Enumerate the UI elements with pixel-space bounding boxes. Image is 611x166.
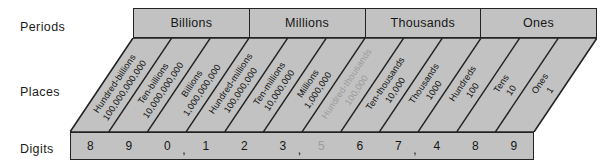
row-label-places: Places [20,85,60,99]
digit-comma: , [298,144,301,156]
period-cell: Thousands [366,9,482,37]
digit-cell: 8 [71,133,110,159]
digit-comma: , [182,144,185,156]
period-label: Millions [285,16,329,30]
digit-cell: 1 [187,133,226,159]
digit-value: 9 [510,139,517,153]
digit-value: 6 [356,139,363,153]
digit-cell: 2 [225,133,264,159]
digit-cell: 6 [341,133,380,159]
periods-row: BillionsMillionsThousandsOnes [133,8,597,38]
digit-value: 4 [433,139,440,153]
period-label: Thousands [391,16,456,30]
digit-value: 2 [241,139,248,153]
digit-value: 3 [279,139,286,153]
digit-cell: 3, [264,133,303,159]
digit-value: 5 [318,139,325,153]
digit-cell: 5 [302,133,341,159]
period-label: Billions [170,16,212,30]
digit-value: 8 [87,139,94,153]
period-label: Ones [523,16,554,30]
places-band: Hundred-billions100,000,000,000Ten-billi… [70,38,597,132]
digit-value: 7 [395,139,402,153]
period-cell: Millions [250,9,366,37]
digit-cell: 8 [456,133,495,159]
row-label-digits: Digits [20,142,54,156]
period-cell: Billions [134,9,250,37]
digit-comma: , [413,144,416,156]
place-value-chart: Periods Places Digits BillionsMillionsTh… [0,0,611,166]
digit-value: 9 [125,139,132,153]
digit-cell: 9 [110,133,149,159]
digit-cell: 4 [418,133,457,159]
period-cell: Ones [481,9,596,37]
row-label-periods: Periods [20,20,65,34]
digit-cell: 9 [495,133,534,159]
digit-value: 0 [164,139,171,153]
digit-value: 1 [202,139,209,153]
digit-cell: 0, [148,133,187,159]
digit-cell: 7, [379,133,418,159]
digit-value: 8 [472,139,479,153]
digits-row: 890,123,567,489 [70,132,534,160]
